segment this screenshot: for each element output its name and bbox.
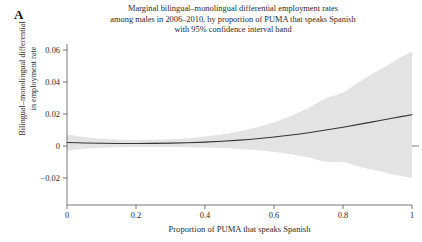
y-axis-tick-label: 0.04: [45, 78, 60, 87]
y-axis-tick-label: 0.02: [45, 110, 60, 119]
x-axis-tick-label: 0.8: [338, 211, 348, 220]
confidence-band-area: [67, 52, 412, 178]
y-axis-tick-label: 0: [56, 142, 60, 151]
plot-area: −0.0200.020.040.0600.20.40.60.81: [0, 0, 422, 242]
x-axis-tick-label: 0.2: [131, 211, 141, 220]
figure-panel: A Marginal bilingual–monolingual differe…: [0, 0, 422, 242]
y-axis-tick-label: −0.02: [41, 174, 60, 183]
x-axis-tick-label: 0.6: [269, 211, 279, 220]
confidence-interval-band: [67, 52, 412, 178]
y-axis-tick-label: 0.06: [45, 46, 60, 55]
x-axis-tick-label: 0: [65, 211, 69, 220]
x-axis-tick-label: 1: [410, 211, 414, 220]
x-axis-tick-label: 0.4: [200, 211, 211, 220]
